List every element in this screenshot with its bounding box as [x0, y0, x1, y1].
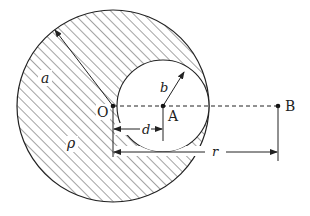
label-d: d: [142, 122, 150, 137]
label-rho: ρ: [66, 135, 76, 151]
label-B: B: [285, 98, 295, 114]
label-b: b: [160, 80, 168, 95]
label-O: O: [97, 104, 108, 120]
sphere-cavity-diagram: a b O A B d r ρ: [0, 0, 310, 216]
label-A: A: [167, 108, 179, 124]
label-a: a: [41, 70, 49, 86]
label-r: r: [212, 144, 219, 159]
dimension-d: d: [114, 122, 162, 137]
